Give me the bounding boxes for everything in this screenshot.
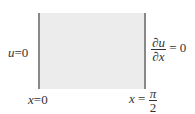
numerator: π — [149, 87, 158, 101]
pi-over-two: π 2 — [149, 87, 158, 114]
left-boundary-line — [38, 13, 40, 89]
left-position-label: x=0 — [28, 93, 48, 106]
denominator: ∂x — [151, 50, 166, 63]
shaded-domain-region — [40, 13, 145, 89]
equals-sign: = — [15, 45, 22, 60]
value: 0 — [41, 92, 48, 107]
value: 0 — [22, 45, 29, 60]
equals-sign: = — [169, 40, 176, 55]
partial-derivative: ∂u ∂x — [151, 36, 166, 63]
left-boundary-condition: u=0 — [8, 46, 28, 59]
denominator: 2 — [149, 101, 158, 114]
value: 0 — [180, 40, 187, 55]
right-boundary-line — [144, 13, 146, 89]
right-boundary-condition: ∂u ∂x = 0 — [151, 36, 186, 63]
right-position-label: x = π 2 — [129, 87, 157, 114]
numerator: ∂u — [151, 36, 166, 50]
equals-sign: = — [138, 91, 145, 106]
var-x: x — [129, 91, 135, 106]
